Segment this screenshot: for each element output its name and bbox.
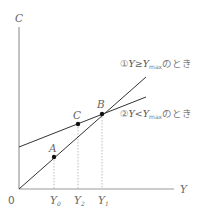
tick-y2: Y2	[74, 194, 85, 207]
point-c	[76, 122, 80, 126]
annotation-line-2: ②Y<Ymaxのとき	[120, 108, 192, 120]
annotation-line-1: ①Y≥Ymaxのとき	[120, 58, 192, 70]
point-a	[52, 155, 56, 159]
y-axis-label: C	[15, 12, 23, 24]
tick-y1: Y1	[98, 194, 109, 207]
tick-y0: Y0	[50, 194, 61, 207]
line-1	[19, 77, 146, 189]
label-c: C	[73, 109, 81, 121]
origin-label: 0	[8, 194, 15, 206]
consumption-income-diagram: A C B C Y 0 Y0 Y2 Y1 ①Y≥Ymaxのとき ②Y<Ymaxの…	[0, 0, 204, 217]
line-2	[19, 97, 146, 147]
point-b	[100, 112, 104, 116]
label-b: B	[96, 98, 105, 110]
x-axis-label: Y	[180, 183, 188, 195]
label-a: A	[48, 142, 57, 154]
